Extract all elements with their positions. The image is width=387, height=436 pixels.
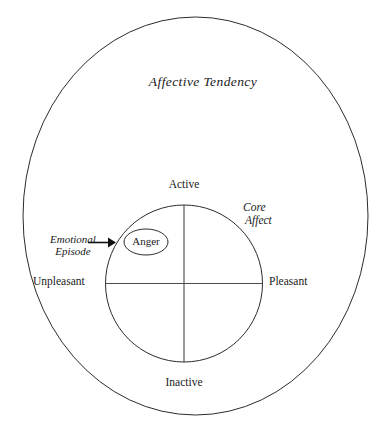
affective-tendency-label: Affective Tendency — [149, 74, 257, 89]
axis-label-pleasant: Pleasant — [269, 275, 307, 288]
axis-label-active: Active — [169, 178, 200, 191]
emotional-episode-label-line2: Episode — [50, 245, 96, 257]
core-affect-label-line1: Core — [243, 201, 266, 213]
core-affect-label-line2: Affect — [243, 214, 272, 227]
emotional-episode-instance-label: Anger — [132, 235, 160, 247]
axis-label-inactive: Inactive — [165, 376, 202, 389]
axis-label-unpleasant: Unpleasant — [33, 275, 85, 288]
diagram-canvas — [0, 0, 387, 436]
emotional-episode-label-line1: Emotional — [50, 233, 96, 245]
emotional-episode-label: Emotional Episode — [50, 233, 96, 258]
affective-tendency-diagram: Affective Tendency Core Affect Emotional… — [0, 0, 387, 436]
core-affect-label: Core Affect — [243, 201, 272, 227]
